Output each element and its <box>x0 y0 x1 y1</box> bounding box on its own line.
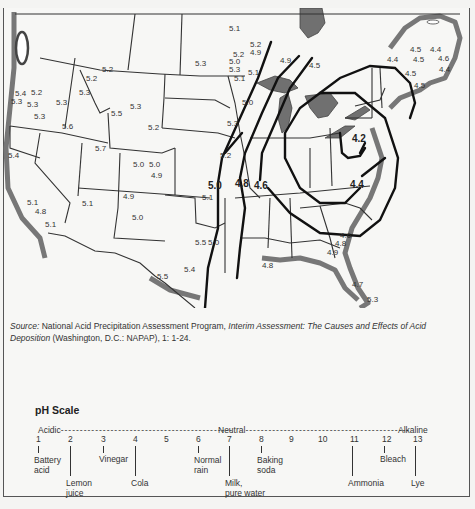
station-value: 5.1 <box>202 193 214 202</box>
station-value: 4.9 <box>327 248 339 257</box>
station-value: 5.7 <box>95 144 107 153</box>
ph-example-label: Vinegar <box>99 454 128 464</box>
ph-tick-13: 13 <box>413 434 422 444</box>
station-value: 4.6 <box>438 54 450 63</box>
station-value: 4.9 <box>123 192 135 201</box>
station-value: 4.5 <box>413 55 425 64</box>
station-value: 5.0 <box>149 160 161 169</box>
station-value: 5.1 <box>234 74 246 83</box>
station-value: 5.4 <box>8 151 20 160</box>
station-value: 5.3 <box>130 102 142 111</box>
station-value: 5.1 <box>229 24 241 33</box>
station-value: 4.4 <box>430 45 442 54</box>
station-value: 4.5 <box>405 69 417 78</box>
station-value: 5.5 <box>157 272 169 281</box>
ph-example-label: Bakingsoda <box>257 455 283 475</box>
station-value: 4.4 <box>387 55 399 64</box>
station-value: 5.2 <box>31 88 43 97</box>
station-value: 4.4 <box>439 65 451 74</box>
station-value: 5.3 <box>27 100 39 109</box>
station-value: 5.3 <box>195 59 207 68</box>
station-value: 5.0 <box>133 160 145 169</box>
ph-tick-4: 4 <box>133 434 138 444</box>
station-value: 5.3 <box>56 98 68 107</box>
ph-tick-1: 1 <box>36 434 41 444</box>
ph-example-stem <box>103 446 104 453</box>
source-citation: Source: National Acid Precipitation Asse… <box>10 320 460 344</box>
us-ph-map: 5.0 4.8 4.6 4.4 4.2 5.15.24.95.25.05.35.… <box>0 8 475 308</box>
station-value: 5.1 <box>45 220 57 229</box>
station-value: 4.9 <box>280 56 292 65</box>
ph-example-stem <box>135 446 136 476</box>
station-value: 5.0 <box>132 213 144 222</box>
ph-example-stem <box>198 446 199 453</box>
source-label: Source: <box>10 321 39 331</box>
station-value: 5.6 <box>62 122 74 131</box>
station-value: 5.1 <box>82 199 94 208</box>
ph-example-label: Ammonia <box>348 478 384 488</box>
station-value: 4.8 <box>262 261 274 270</box>
ph-tick-8: 8 <box>259 434 264 444</box>
station-value: 5.3 <box>227 119 239 128</box>
station-value: 5.2 <box>102 65 114 74</box>
station-value: 5.1 <box>248 68 260 77</box>
station-value: 4.8 <box>35 207 47 216</box>
ph-tick-5: 5 <box>164 434 169 444</box>
ph-example-stem <box>38 446 39 453</box>
ph-example-label: Batteryacid <box>34 455 61 475</box>
ph-example-label: Bleach <box>380 454 406 464</box>
ph-example-stem <box>352 446 353 476</box>
ph-tick-2: 2 <box>68 434 73 444</box>
ph-tick-11: 11 <box>350 434 359 444</box>
ph-tick-12: 12 <box>382 434 391 444</box>
station-value: 5.2 <box>148 123 160 132</box>
svg-text:4.2: 4.2 <box>352 133 366 144</box>
svg-text:5.0: 5.0 <box>208 180 222 191</box>
station-value: 5.3 <box>11 97 23 106</box>
station-value: 4.8 <box>335 239 347 248</box>
ph-example-stem <box>384 446 385 453</box>
ph-example-label: Lye <box>411 478 424 488</box>
ph-scale-title: pH Scale <box>35 404 79 416</box>
ph-example-stem <box>70 446 71 476</box>
station-value: 5.0 <box>242 98 254 107</box>
source-text-after: (Washington, D.C.: NAPAP), 1: 1-24. <box>50 333 191 343</box>
ph-example-label: Cola <box>131 478 148 488</box>
ph-tick-6: 6 <box>196 434 201 444</box>
ph-tick-9: 9 <box>289 434 294 444</box>
station-value: 4.5 <box>410 45 422 54</box>
station-value: 5.3 <box>79 88 91 97</box>
ph-tick-7: 7 <box>227 434 232 444</box>
station-value: 5.2 <box>86 74 98 83</box>
station-value: 4.5 <box>414 81 426 90</box>
station-value: 4.9 <box>151 171 163 180</box>
source-text-before: National Acid Precipitation Assessment P… <box>39 321 228 331</box>
station-value: 5.5 <box>195 238 207 247</box>
svg-text:4.8: 4.8 <box>235 178 249 189</box>
ph-example-stem <box>261 446 262 453</box>
ph-example-stem <box>415 446 416 476</box>
station-value: 4.9 <box>250 48 262 57</box>
ph-example-label: Normalrain <box>194 455 221 475</box>
station-value: 5.5 <box>111 109 123 118</box>
ph-example-label: Lemonjuice <box>66 478 92 498</box>
station-value: 5.4 <box>184 265 196 274</box>
ph-example-label: Milk,pure water <box>225 478 265 498</box>
ph-example-stem <box>229 446 230 476</box>
ph-tick-3: 3 <box>101 434 106 444</box>
station-value: 5.3 <box>34 112 46 121</box>
svg-text:4.4: 4.4 <box>350 179 364 190</box>
station-value: 4.7 <box>352 280 364 289</box>
station-value: 5.3 <box>229 65 241 74</box>
station-value: 5.2 <box>220 151 232 160</box>
station-value: 5.3 <box>367 295 379 304</box>
svg-text:4.6: 4.6 <box>254 180 268 191</box>
station-value: 4.5 <box>309 61 321 70</box>
station-value: 5.1 <box>27 198 39 207</box>
station-value: 5.0 <box>208 238 220 247</box>
ph-tick-10: 10 <box>318 434 327 444</box>
